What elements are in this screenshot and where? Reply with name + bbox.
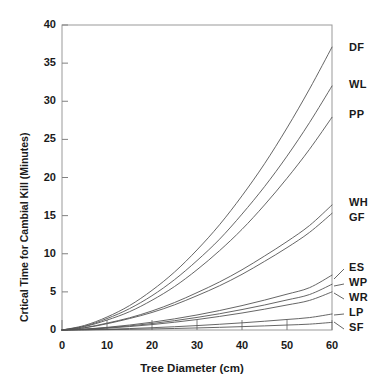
x-tick-label: 30	[177, 339, 217, 351]
x-tick-label: 50	[267, 339, 307, 351]
y-axis-ticks	[62, 25, 68, 330]
y-tick-label: 40	[26, 18, 56, 30]
y-tick-label: 5	[26, 285, 56, 297]
series-label-gf: GF	[349, 211, 365, 223]
x-tick-label: 10	[87, 339, 127, 351]
label-leader-lines	[334, 269, 344, 329]
x-axis-title: Tree Diameter (cm)	[0, 362, 384, 374]
y-tick-label: 25	[26, 132, 56, 144]
plot-frame	[62, 25, 332, 330]
leader-line-wp	[334, 284, 344, 286]
y-tick-label: 15	[26, 209, 56, 221]
chart-canvas	[0, 0, 384, 387]
x-tick-label: 60	[312, 339, 352, 351]
y-tick-label: 35	[26, 56, 56, 68]
x-tick-label: 20	[132, 339, 172, 351]
y-axis-title: Crtical Time for Cambial Kill (Minutes)	[18, 133, 30, 322]
y-tick-label: 0	[26, 323, 56, 335]
plot-area-border	[62, 25, 332, 330]
y-tick-label: 20	[26, 171, 56, 183]
series-label-pp: PP	[349, 108, 364, 120]
series-label-wr: WR	[349, 291, 368, 303]
y-tick-label: 30	[26, 94, 56, 106]
series-label-es: ES	[349, 261, 364, 273]
leader-line-wr	[334, 293, 344, 299]
curve-wh	[62, 205, 332, 330]
series-label-wh: WH	[349, 196, 368, 208]
curve-gf	[62, 213, 332, 330]
series-label-lp: LP	[349, 306, 364, 318]
x-tick-label: 0	[42, 339, 82, 351]
series-label-wl: WL	[349, 78, 367, 90]
series-label-wp: WP	[349, 276, 367, 288]
y-tick-label: 10	[26, 247, 56, 259]
x-tick-label: 40	[222, 339, 262, 351]
leader-line-lp	[334, 314, 344, 315]
curve-df	[62, 47, 332, 330]
series-label-df: DF	[349, 41, 364, 53]
data-curves	[62, 47, 332, 330]
leader-line-es	[334, 269, 344, 279]
series-label-sf: SF	[349, 321, 364, 333]
leader-line-sf	[334, 322, 344, 329]
